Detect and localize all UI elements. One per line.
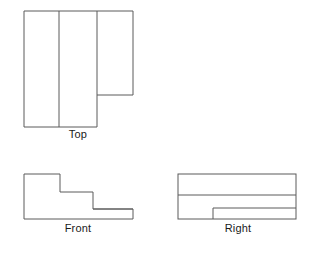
- right-view-group: [178, 174, 296, 219]
- top-view-label: Top: [54, 128, 102, 140]
- right-view-label: Right: [209, 222, 267, 234]
- front-view-label: Front: [51, 222, 105, 234]
- right-view-outline: [178, 174, 296, 219]
- orthographic-drawing-canvas: [0, 0, 311, 255]
